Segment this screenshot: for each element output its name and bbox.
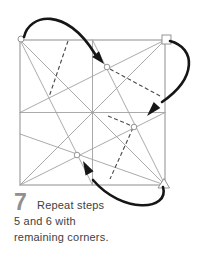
fold-lines — [49, 41, 162, 179]
crease-lines — [20, 40, 165, 185]
fold-line-top-right — [110, 69, 162, 97]
fold-arrow-top-left-shaft — [24, 19, 95, 54]
fold-arrow-top-right-head — [147, 102, 160, 116]
fold-arrow-top-left — [24, 19, 104, 64]
fold-line-center-segment — [108, 116, 132, 126]
instruction-line-3: remaining corners. — [14, 231, 109, 244]
instruction-line-1: Repeat steps — [37, 199, 104, 212]
fold-arrows — [24, 19, 189, 206]
fold-line-top-left — [49, 41, 68, 97]
fold-arrow-bottom-head — [83, 161, 94, 175]
fold-arrow-top-right-shaft — [162, 41, 189, 102]
origami-step-figure: 7 Repeat steps 5 and 6 with remaining co… — [0, 0, 197, 255]
instruction-line-2: 5 and 6 with — [14, 215, 76, 228]
step-number: 7 — [14, 189, 27, 216]
fold-point-upper — [104, 64, 110, 70]
corner-square-marker — [162, 35, 171, 44]
fold-line-bottom-right — [110, 128, 133, 179]
fold-point-lower — [74, 152, 80, 158]
fold-point-right — [131, 124, 137, 130]
